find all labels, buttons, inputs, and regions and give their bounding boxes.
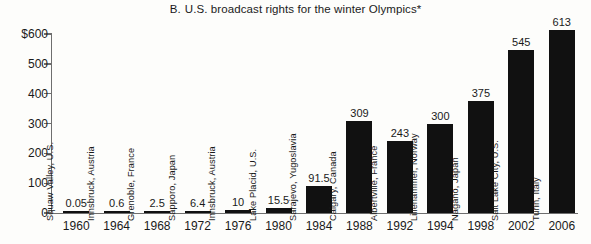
bar-value-label: 613: [553, 16, 571, 28]
x-axis-year-label: 1964: [103, 219, 130, 233]
bar-value-label: 545: [512, 36, 530, 48]
host-city-label: Lake Placid, U.S.: [248, 149, 258, 221]
host-city-label: Lillehammer, Norway: [409, 133, 419, 221]
x-axis-year-label: 1994: [427, 219, 454, 233]
host-city-label: Sarajevo, Yugoslavia: [288, 133, 298, 221]
host-city-label: Sapporo, Japan: [167, 155, 177, 221]
y-axis-label: 300: [28, 117, 48, 131]
bar-value-label: 2.5: [149, 197, 164, 209]
x-axis-year-label: 1976: [225, 219, 252, 233]
chart-title: B.U.S. broadcast rights for the winter O…: [0, 3, 591, 15]
y-axis-label: $600: [21, 27, 48, 41]
y-axis-label: 500: [28, 57, 48, 71]
bar-value-label: 6.4: [190, 197, 205, 209]
x-axis-year-label: 1968: [144, 219, 171, 233]
bar-value-label: 309: [350, 107, 368, 119]
x-axis-year-label: 1972: [184, 219, 211, 233]
bar-value-label: 375: [472, 87, 490, 99]
host-city-label: Salt Lake City, U.S.: [490, 140, 500, 221]
x-axis-year-label: 1998: [467, 219, 494, 233]
chart-title-letter: B.: [170, 3, 181, 15]
bar-value-label: 243: [391, 127, 409, 139]
bar-value-label: 0.05: [66, 197, 87, 209]
host-city-label: Turin, Italy: [531, 177, 541, 221]
bar-value-label: 300: [431, 110, 449, 122]
bar-value-label: 10: [232, 196, 244, 208]
x-axis-year-label: 1960: [63, 219, 90, 233]
x-axis-year-label: 2006: [548, 219, 575, 233]
host-city-label: Squaw Valley, U.S.: [45, 142, 55, 221]
y-axis-label: 400: [28, 87, 48, 101]
bar-value-label: 91.5: [308, 172, 329, 184]
x-axis-year-label: 2002: [508, 219, 535, 233]
host-city-label: Albertville, France: [369, 146, 379, 221]
x-axis-year-label: 1980: [265, 219, 292, 233]
x-axis-year-label: 1992: [387, 219, 414, 233]
host-city-label: Innsbruck, Austria: [86, 146, 96, 221]
bar-value-label: 15.5: [268, 194, 289, 206]
x-axis-year-label: 1988: [346, 219, 373, 233]
x-axis-year-label: 1984: [306, 219, 333, 233]
host-city-label: Nagano, Japan: [450, 157, 460, 221]
bar[interactable]: [549, 30, 575, 213]
chart-screenshot: B.U.S. broadcast rights for the winter O…: [0, 0, 591, 244]
chart-title-text: U.S. broadcast rights for the winter Oly…: [185, 3, 422, 15]
host-city-label: Innsbruck, Austria: [207, 146, 217, 221]
host-city-label: Calgary, Canada: [328, 151, 338, 221]
host-city-label: Grenoble, France: [126, 148, 136, 221]
bar-value-label: 0.6: [109, 197, 124, 209]
